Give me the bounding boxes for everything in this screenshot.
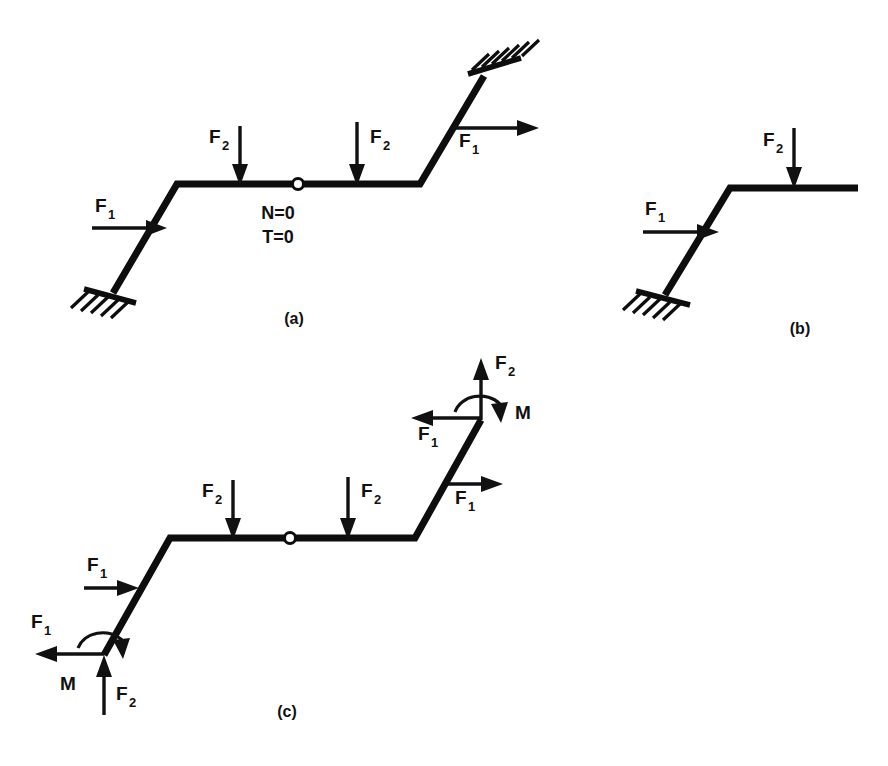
- panel-c-reaction-F2-top: [473, 358, 489, 420]
- panel-a-force-F1-right-label: F: [459, 130, 471, 151]
- panel-c-internal-hinge: [285, 533, 296, 544]
- panel-c-reaction-F2-bottom-sublabel: 2: [129, 695, 136, 710]
- panel-c-force-F1-upper-incline-sublabel: 1: [468, 499, 475, 514]
- panel-c-reaction-moment-bottom-label: M: [60, 673, 76, 694]
- panel-a-force-F2-second-label: F: [370, 126, 382, 147]
- panel-b-caption: (b): [790, 320, 810, 337]
- panel-b-frame-member: [665, 188, 858, 295]
- panel-c-reaction-F2-bottom: [96, 655, 112, 715]
- panel-a-internal-hinge: [293, 179, 304, 190]
- panel-c-force-F2-first-sublabel: 2: [215, 492, 222, 507]
- panel-b-force-F1-sublabel: 1: [658, 210, 665, 225]
- panel-c-force-F2-first: [225, 480, 241, 540]
- panel-b-force-F2-label: F: [763, 129, 775, 150]
- panel-c-reaction-F1-bottom-sublabel: 1: [44, 623, 51, 638]
- panel-b-force-F2: [786, 128, 802, 189]
- panel-b: F 1 F 2 (b): [623, 128, 858, 337]
- panel-c-force-F2-second-label: F: [361, 480, 373, 501]
- panel-a-note-T: T=0: [262, 227, 294, 247]
- engineering-diagram-canvas: F 1 F 2 F 2 F 1 N=0 T=0 (a): [0, 0, 888, 766]
- panel-c-reaction-F2-top-label: F: [495, 352, 507, 373]
- panel-c-force-F1-lower-incline: [84, 580, 139, 596]
- panel-a-note-N: N=0: [261, 203, 295, 223]
- panel-c-reaction-F1-bottom-label: F: [31, 611, 43, 632]
- panel-b-force-F1-label: F: [645, 198, 657, 219]
- panel-c-reaction-F1-bottom: [35, 646, 104, 662]
- panel-a-force-F1-left-label: F: [95, 195, 107, 216]
- panel-c-force-F1-lower-incline-sublabel: 1: [100, 566, 107, 581]
- panel-c-force-F1-upper-incline-label: F: [455, 487, 467, 508]
- panel-c-reaction-F2-top-sublabel: 2: [508, 364, 515, 379]
- figure-root: F 1 F 2 F 2 F 1 N=0 T=0 (a): [0, 0, 888, 766]
- panel-b-support-left: [623, 291, 690, 320]
- panel-c: F 2 F 2 F 1 F 1 F 2: [31, 352, 531, 720]
- panel-c-force-F2-second: [340, 477, 356, 540]
- panel-c-reaction-F1-top-label: F: [418, 423, 430, 444]
- panel-c-reaction-F2-bottom-label: F: [116, 683, 128, 704]
- panel-a-force-F2-first: [232, 126, 248, 186]
- panel-c-caption: (c): [277, 703, 297, 720]
- panel-a-support-left: [71, 289, 136, 318]
- panel-a-caption: (a): [284, 310, 304, 327]
- panel-b-force-F2-sublabel: 2: [776, 141, 783, 156]
- panel-a-support-right: [468, 40, 539, 74]
- panel-a-force-F1-right-sublabel: 1: [472, 142, 479, 157]
- panel-a-force-F1-left-sublabel: 1: [108, 207, 115, 222]
- panel-c-force-F2-first-label: F: [202, 480, 214, 501]
- panel-c-reaction-F1-top-sublabel: 1: [431, 435, 438, 450]
- panel-c-force-F1-lower-incline-label: F: [87, 554, 99, 575]
- panel-a-force-F2-second: [349, 122, 365, 186]
- panel-a: F 1 F 2 F 2 F 1 N=0 T=0 (a): [71, 40, 539, 327]
- panel-a-force-F2-second-sublabel: 2: [383, 138, 390, 153]
- panel-a-force-F2-first-label: F: [209, 126, 221, 147]
- panel-c-force-F2-second-sublabel: 2: [374, 492, 381, 507]
- panel-c-reaction-moment-top-label: M: [515, 402, 531, 423]
- panel-a-force-F2-first-sublabel: 2: [222, 138, 229, 153]
